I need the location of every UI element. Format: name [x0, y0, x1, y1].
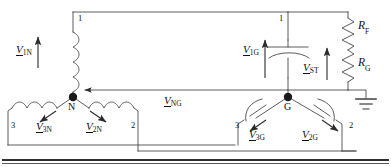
voltage-label-vst: VST [303, 62, 319, 73]
voltage-subscript: ST [310, 66, 319, 75]
voltage-symbol: V [16, 43, 23, 56]
voltage-label-v3n: V3N [36, 121, 52, 132]
voltage-label-v2g: V2G [302, 129, 318, 140]
arrow-v2g [322, 120, 338, 131]
schematic-svg [0, 0, 391, 167]
inductor-phase-3 [12, 102, 57, 108]
voltage-subscript: 2G [309, 133, 318, 142]
voltage-symbol: V [243, 43, 250, 56]
voltage-symbol: V [164, 94, 171, 107]
capacitor-c3-plate-curved [246, 99, 262, 121]
circuit-diagram-canvas: 1 1 3 2 3 2 N G V1N V3N V2N VNG V1G VST … [0, 0, 391, 167]
voltage-label-v2n: V2N [86, 121, 102, 132]
voltage-label-v3g: V3G [249, 129, 265, 140]
node-label-g: G [284, 102, 291, 112]
voltage-subscript: 2N [93, 125, 102, 134]
junction-dot-g [284, 93, 292, 101]
inductor-phase-2 [89, 102, 134, 108]
capacitor-c2-plate-curved [318, 99, 334, 121]
terminal-label-3-left: 3 [11, 121, 15, 130]
resistor-rg [342, 50, 354, 82]
voltage-subscript: 3N [43, 125, 52, 134]
voltage-subscript: NG [171, 99, 182, 108]
voltage-subscript: 3G [256, 133, 265, 142]
voltage-label-v1g: V1G [243, 44, 259, 55]
voltage-symbol: V [249, 128, 256, 141]
wire-to-earth [348, 90, 366, 98]
resistor-label-rg: RG [358, 57, 370, 71]
resistor-subscript: F [365, 27, 369, 36]
terminal-label-2-left: 2 [131, 121, 135, 130]
junction-dot-n [69, 93, 77, 101]
voltage-subscript: 1G [250, 48, 259, 57]
resistor-subscript: G [365, 64, 370, 73]
inductor-phase-1 [73, 32, 79, 92]
terminal-label-3-right: 3 [235, 121, 239, 130]
capacitor-c3-plate-straight [250, 105, 266, 116]
terminal-label-1-right: 1 [279, 14, 283, 23]
voltage-label-vng: VNG [164, 95, 182, 106]
voltage-symbol: V [303, 61, 310, 74]
capacitor-c2-plate-straight [314, 105, 330, 116]
voltage-symbol: V [302, 128, 309, 141]
wire-g-to-c2 [288, 97, 324, 118]
voltage-subscript: 1N [23, 48, 32, 57]
node-label-n: N [68, 102, 75, 112]
resistor-label-rf: RF [358, 20, 369, 34]
terminal-label-1-left: 1 [78, 14, 82, 23]
resistor-symbol: R [358, 56, 365, 68]
voltage-symbol: V [36, 120, 43, 133]
resistor-rf [342, 18, 354, 50]
terminal-label-2-right: 2 [349, 121, 353, 130]
voltage-label-v1n: V1N [16, 44, 32, 55]
capacitor-plate-bottom-curved [269, 53, 309, 58]
voltage-symbol: V [86, 120, 93, 133]
wire-t2r-down [336, 120, 342, 151]
resistor-symbol: R [358, 19, 365, 31]
